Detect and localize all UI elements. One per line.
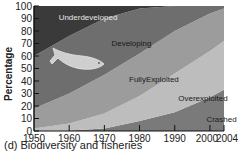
- y-tick-label: 60: [21, 51, 33, 62]
- y-tick-label: 30: [21, 88, 33, 99]
- x-tick-label: 2004: [216, 133, 239, 144]
- y-tick-label: 10: [21, 113, 33, 124]
- y-tick-label: 0: [26, 126, 32, 137]
- label-developing: Developing: [111, 39, 151, 48]
- y-axis-label: Percentage: [3, 47, 14, 101]
- x-tick-label: 1990: [164, 133, 187, 144]
- y-tick-label: 100: [15, 1, 32, 12]
- y-tick-label: 90: [21, 13, 33, 24]
- label-overexploited: Overexploited: [178, 94, 227, 103]
- y-tick-label: 40: [21, 76, 33, 87]
- figure-caption: (d) Biodiversity and fisheries: [4, 139, 142, 151]
- y-tick-label: 50: [21, 63, 33, 74]
- area-bands: [34, 6, 224, 131]
- y-tick-label: 20: [21, 101, 33, 112]
- stacked-area-chart: UnderdevelopedDevelopingFullyExploitedOv…: [0, 0, 244, 153]
- y-tick-label: 80: [21, 26, 33, 37]
- label-fullyexploited: FullyExploited: [129, 75, 179, 84]
- y-tick-label: 70: [21, 38, 33, 49]
- label-underdeveloped: Underdeveloped: [59, 13, 118, 22]
- label-crashed: Crashed: [206, 115, 236, 124]
